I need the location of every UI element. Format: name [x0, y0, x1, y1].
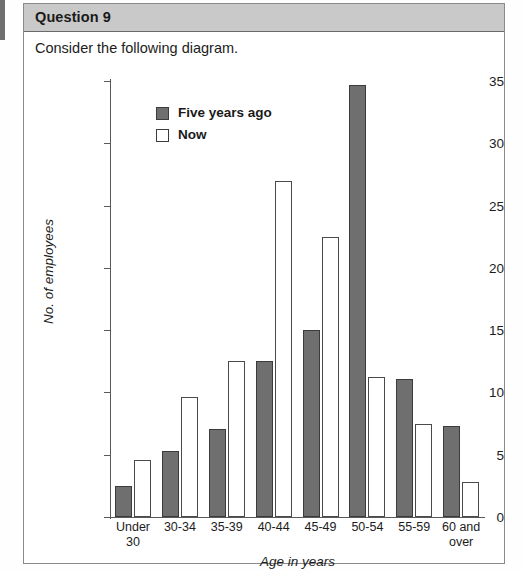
bar-five-years-ago [115, 486, 132, 517]
y-axis-tick-label: 15 [430, 323, 504, 338]
bar-five-years-ago [162, 451, 179, 517]
x-axis-category-label-line: over [430, 535, 492, 550]
question-card: Question 9 Consider the following diagra… [23, 3, 505, 564]
x-axis-category-label-line: 60 and [430, 520, 492, 535]
bar-five-years-ago [443, 426, 460, 517]
page-root: Question 9 Consider the following diagra… [0, 0, 525, 572]
bar-now [228, 361, 245, 517]
legend-swatch-icon-five-years-ago [156, 107, 169, 120]
bar-five-years-ago [256, 361, 273, 517]
y-axis-line [110, 79, 111, 519]
bar-now [134, 460, 151, 517]
y-axis-tick [104, 517, 110, 518]
bar-five-years-ago [396, 379, 413, 517]
y-axis-tick [104, 268, 110, 269]
bar-now [415, 424, 432, 517]
y-axis-tick [104, 143, 110, 144]
x-axis-category-label-line: 30 [102, 535, 164, 550]
legend-label-five-years-ago: Five years ago [178, 105, 272, 120]
x-axis-line [110, 517, 485, 518]
legend-swatch-icon-now [156, 129, 169, 142]
y-axis-tick [104, 392, 110, 393]
bar-five-years-ago [349, 85, 366, 517]
question-prompt-text: Consider the following diagram. [35, 40, 238, 56]
y-axis-tick-label: 5 [430, 447, 504, 462]
y-axis-tick-label: 30 [430, 136, 504, 151]
page-gutter-artifact [0, 0, 5, 40]
y-axis-tick [104, 206, 110, 207]
x-axis-category-label: 60 andover [430, 520, 492, 550]
legend-label-now: Now [178, 127, 207, 142]
bar-chart: 05101520253035 Under3030-3435-3940-4445-… [24, 64, 504, 564]
bar-five-years-ago [209, 429, 226, 517]
y-axis-tick [104, 455, 110, 456]
y-axis-tick-label: 20 [430, 260, 504, 275]
y-axis-tick-label: 35 [430, 74, 504, 89]
question-header-band: Question 9 [24, 4, 504, 32]
y-axis-tick [104, 81, 110, 82]
bar-five-years-ago [303, 330, 320, 517]
x-axis-title: Age in years [110, 554, 485, 569]
y-axis-tick-label: 25 [430, 198, 504, 213]
y-axis-tick [104, 330, 110, 331]
bar-now [462, 482, 479, 517]
question-number-label: Question 9 [35, 9, 111, 25]
y-axis-title: No. of employees [41, 182, 56, 362]
y-axis-tick-label: 10 [430, 385, 504, 400]
bar-now [322, 237, 339, 517]
bar-now [275, 181, 292, 517]
bar-now [181, 397, 198, 517]
bar-now [368, 377, 385, 517]
